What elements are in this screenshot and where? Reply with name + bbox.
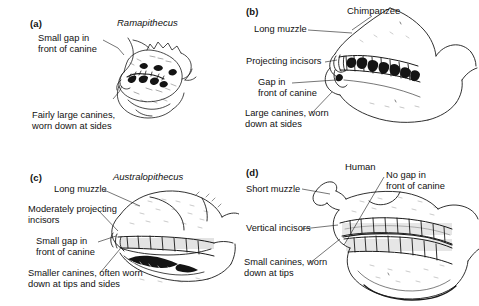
leader-short-muzzle	[302, 189, 330, 194]
panel-b-large-canines-label: Large canines, worn down at sides	[245, 108, 329, 131]
panel-b-gap-in-front-label: Gap in front of canine	[258, 77, 317, 100]
panel-a-large-canines-label: Fairly large canines, worn down at sides	[32, 110, 115, 133]
panel-d-short-muzzle-label: Short muzzle	[246, 184, 300, 195]
leader-long-muzzle	[308, 30, 352, 33]
panel-c-long-muzzle-label: Long muzzle	[54, 184, 107, 195]
panel-c-small-gap-label: Small gap in front of canine	[36, 236, 95, 259]
panel-a-title: Ramapithecus	[117, 17, 178, 28]
panel-b-title: Chimpanzee	[347, 5, 400, 16]
panel-d-vertical-incisors-label: Vertical incisors	[246, 223, 311, 234]
panel-d-title: Human	[345, 161, 376, 172]
panel-a: (a) Ramapithecus Small gap in front of c…	[0, 0, 239, 153]
panel-b: (b) Chimpanzee Long muzzle Projecting in…	[240, 0, 479, 153]
panel-d: (d) Human No gap in front of canine Shor…	[240, 153, 479, 306]
leader-small-gap	[98, 236, 116, 242]
panel-b-projecting-incisors-label: Projecting incisors	[246, 56, 321, 67]
panel-b-long-muzzle-label: Long muzzle	[254, 24, 307, 35]
leader-small-gap	[103, 40, 124, 55]
leader-large-canines	[113, 86, 122, 99]
panel-c-letter: (c)	[30, 172, 42, 183]
panel-a-letter: (a)	[30, 18, 42, 29]
panel-d-letter: (d)	[246, 167, 258, 178]
comparative-jaw-figure: (a) Ramapithecus Small gap in front of c…	[0, 0, 479, 306]
panel-c: (c) Australopithecus Long muzzle Moderat…	[0, 153, 239, 306]
panel-b-letter: (b)	[246, 6, 258, 17]
leader-no-gap	[344, 177, 384, 245]
leader-projecting-incisors	[325, 60, 337, 62]
panel-c-smaller-canines-label: Smaller canines, often worn down at tips…	[28, 268, 143, 291]
panel-c-moderately-projecting-incisors-label: Moderately projecting incisors	[28, 204, 117, 227]
panel-d-small-canines-label: Small canines, worn down at tips	[244, 257, 327, 280]
panel-a-small-gap-label: Small gap in front of canine	[38, 33, 97, 56]
panel-d-no-gap-label: No gap in front of canine	[386, 170, 445, 193]
leader-chimpanzee-title	[352, 16, 372, 30]
panel-c-title: Australopithecus	[113, 171, 183, 182]
